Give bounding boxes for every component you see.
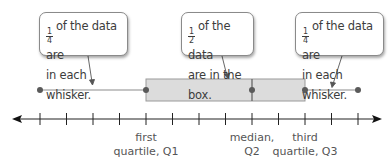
callout-line-1: 1 4 of the data are (302, 16, 378, 65)
fraction: 1 4 (302, 28, 309, 45)
callout-line-1: 1 2 of the data (188, 16, 248, 65)
callout-line-2: in each whisker. (302, 65, 378, 105)
label-q3: third quartile, Q3 (265, 131, 345, 159)
fraction: 1 2 (188, 28, 195, 45)
label-q1: first quartile, Q1 (106, 131, 186, 159)
fraction: 1 4 (46, 28, 53, 45)
median-point (249, 87, 255, 93)
callout-line-2: in each whisker. (46, 65, 122, 105)
callout-left-whisker: 1 4 of the data are in each whisker. (39, 12, 128, 56)
callout-line-1: 1 4 of the data are (46, 16, 122, 65)
callout-right-whisker: 1 4 of the data are in each whisker. (295, 12, 384, 56)
callout-line-2: are in the box. (188, 65, 248, 105)
callout-box: 1 2 of the data are in the box. (181, 12, 254, 56)
min-point (37, 87, 43, 93)
q1-point (143, 87, 149, 93)
